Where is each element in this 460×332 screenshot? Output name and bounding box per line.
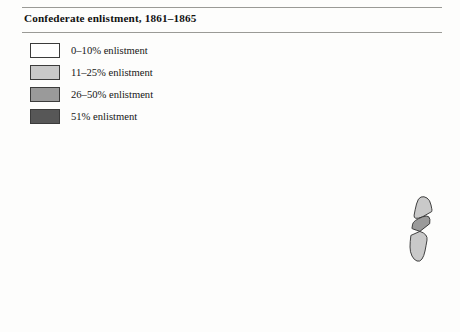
legend-label-51: 51% enlistment: [71, 109, 137, 124]
page-title: Confederate enlistment, 1861–1865: [24, 12, 196, 24]
county-area: [412, 216, 430, 231]
legend-swatch-51: [30, 109, 60, 124]
legend-swatch-11-25: [30, 65, 60, 80]
county-area: [410, 231, 427, 261]
legend-label-26-50: 26–50% enlistment: [71, 87, 153, 102]
legend-label-11-25: 11–25% enlistment: [71, 65, 153, 80]
title-block: Confederate enlistment, 1861–1865: [22, 7, 442, 33]
county-area: [414, 197, 432, 219]
legend-label-0-10: 0–10% enlistment: [71, 43, 148, 58]
figure-container: Confederate enlistment, 1861–1865 0–10% …: [0, 0, 460, 332]
legend-item: 26–50% enlistment: [30, 86, 200, 106]
map-legend: 0–10% enlistment 11–25% enlistment 26–50…: [30, 42, 200, 130]
legend-item: 0–10% enlistment: [30, 42, 200, 62]
legend-swatch-26-50: [30, 87, 60, 102]
legend-item: 51% enlistment: [30, 108, 200, 128]
title-rule-top: [22, 7, 442, 8]
legend-swatch-0-10: [30, 43, 60, 58]
title-rule-bottom: [22, 32, 442, 33]
county-layer: [410, 197, 432, 262]
legend-item: 11–25% enlistment: [30, 64, 200, 84]
